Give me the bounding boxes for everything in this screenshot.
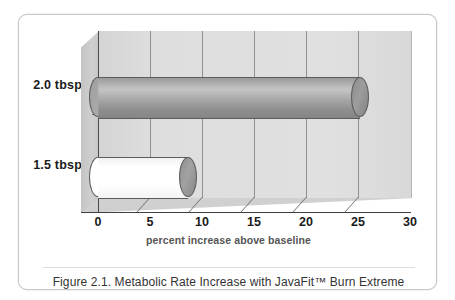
- figure-caption: Figure 2.1. Metabolic Rate Increase with…: [19, 275, 438, 289]
- x-axis-title: percent increase above baseline: [19, 234, 438, 246]
- caption-divider: [43, 267, 415, 268]
- x-axis-tick-label-5: 5: [130, 215, 170, 229]
- bar-end-cap: [179, 157, 197, 197]
- bar-body: [98, 157, 188, 199]
- bar-2-0-tbsp[interactable]: [98, 77, 369, 117]
- x-axis-tick-label-15: 15: [234, 215, 274, 229]
- x-axis-line: [81, 212, 411, 213]
- x-axis-tick-label-20: 20: [286, 215, 326, 229]
- y-axis-category-label-1-5-tbsp: 1.5 tbsp: [0, 158, 82, 172]
- bar-end-cap: [351, 77, 369, 117]
- y-axis-category-label-2-0-tbsp: 2.0 tbsp: [0, 78, 82, 92]
- x-axis-tick-label-10: 10: [182, 215, 222, 229]
- x-axis-tick-label-25: 25: [338, 215, 378, 229]
- bar-body: [98, 77, 360, 119]
- plot-area: [81, 31, 411, 213]
- chart-region: 2.0 tbsp 1.5 tbsp: [19, 15, 438, 243]
- x-axis-tick-label-30: 30: [390, 215, 430, 229]
- bar-1-5-tbsp[interactable]: [98, 157, 197, 197]
- figure-card: 2.0 tbsp 1.5 tbsp: [18, 14, 437, 290]
- x-axis-tick-label-0: 0: [78, 215, 118, 229]
